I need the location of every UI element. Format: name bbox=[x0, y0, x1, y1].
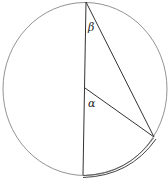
beta-label: β bbox=[87, 21, 94, 34]
chord-line bbox=[86, 2, 154, 137]
circle-diagram: β α bbox=[0, 0, 168, 179]
alpha-label: α bbox=[88, 97, 96, 110]
intercepted-arc-outer bbox=[83, 139, 156, 178]
radius-line bbox=[85, 88, 154, 137]
circle-outline bbox=[3, 3, 167, 176]
